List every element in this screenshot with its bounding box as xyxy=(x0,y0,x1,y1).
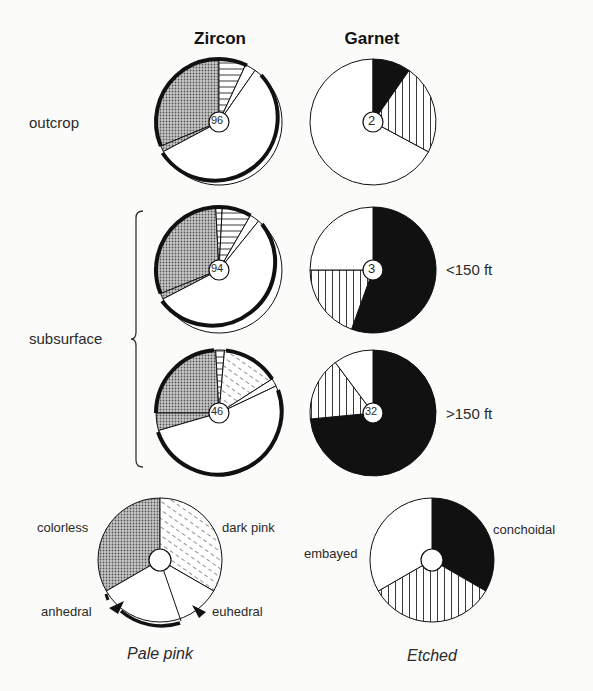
legend-label-conchoidal: conchoidal xyxy=(493,522,555,537)
garnet-column-header: Garnet xyxy=(345,29,400,49)
mineral-pie-diagram: Zircon Garnet outcrop subsurface <150 ft… xyxy=(0,0,593,691)
legend-label-colorless: colorless xyxy=(37,520,88,535)
legend-label-dark-pink: dark pink xyxy=(222,520,275,535)
zircon-legend-pie xyxy=(98,498,222,626)
legend-label-anhedral: anhedral xyxy=(41,604,92,619)
zircon-column-header: Zircon xyxy=(194,29,246,49)
legend-label-embayed: embayed xyxy=(304,546,357,561)
count-zircon-outcrop: 96 xyxy=(211,114,223,126)
row-label-outcrop: outcrop xyxy=(29,114,79,131)
depth-label-shallow: <150 ft xyxy=(446,261,492,278)
garnet-legend-pie xyxy=(370,498,494,622)
count-garnet-shallow: 3 xyxy=(368,261,375,276)
legend-title-etched: Etched xyxy=(407,647,457,665)
count-zircon-shallow: 94 xyxy=(211,262,223,274)
count-garnet-outcrop: 2 xyxy=(368,113,375,128)
depth-label-deep: >150 ft xyxy=(446,405,492,422)
row-label-subsurface: subsurface xyxy=(29,330,102,347)
count-zircon-deep: 46 xyxy=(211,405,223,417)
legend-title-pale-pink: Pale pink xyxy=(127,645,193,663)
count-garnet-deep: 32 xyxy=(365,405,377,417)
legend-label-euhedral: euhedral xyxy=(212,604,263,619)
subsurface-brace xyxy=(131,211,143,467)
